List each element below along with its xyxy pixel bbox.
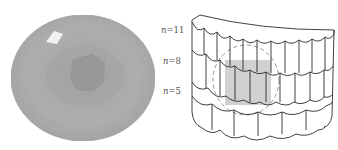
layer-label-n8: n=8	[163, 56, 181, 66]
left-edge	[192, 20, 202, 128]
top-edge	[192, 15, 334, 34]
right-edge	[324, 30, 334, 127]
layer-label-n5: n=5	[163, 86, 181, 96]
specimen-disc-image	[0, 0, 160, 150]
specimen-photo-panel	[0, 0, 160, 150]
scallop-row-bottom	[202, 127, 325, 140]
scallop-row-1	[192, 22, 334, 44]
layered-sheet-diagram-panel: n=11 n=8 n=5	[160, 0, 338, 150]
layer-label-n11: n=11	[161, 25, 184, 35]
curved-scale-sheet-diagram	[160, 0, 338, 150]
